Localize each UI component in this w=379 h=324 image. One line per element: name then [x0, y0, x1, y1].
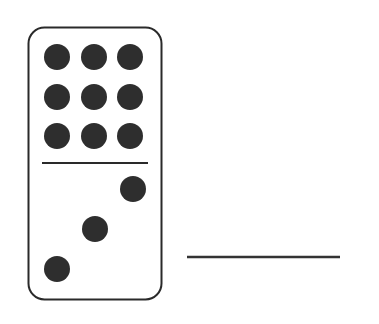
pip — [44, 44, 70, 70]
pip — [120, 176, 146, 202]
pip — [117, 44, 143, 70]
pip — [44, 123, 70, 149]
pip — [81, 123, 107, 149]
pip — [81, 84, 107, 110]
pip — [44, 84, 70, 110]
top-half-pips — [44, 44, 143, 149]
pip — [81, 44, 107, 70]
pip — [82, 216, 108, 242]
pip — [117, 123, 143, 149]
domino-figure — [0, 0, 379, 324]
pip — [117, 84, 143, 110]
pip — [44, 256, 70, 282]
